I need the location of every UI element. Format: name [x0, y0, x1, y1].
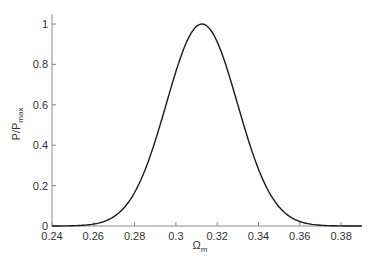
y-ticks: 00.20.40.60.81 [33, 18, 56, 232]
chart: 0.240.260.280.30.320.340.360.38 00.20.40… [0, 0, 375, 267]
y-tick-label: 0.4 [33, 139, 48, 151]
y-tick-label: 0 [42, 220, 48, 232]
y-tick-label: 0.8 [33, 58, 48, 70]
x-tick-label: 0.3 [168, 230, 183, 242]
probability-curve [52, 24, 362, 226]
x-axis-label-sub: m [201, 245, 208, 254]
y-tick-label: 0.2 [33, 180, 48, 192]
y-axis-label-main: P/P [10, 123, 22, 141]
y-axis-label-sub: max [16, 108, 25, 123]
y-axis-label: P/Pmax [10, 108, 25, 141]
x-tick-label: 0.28 [124, 230, 145, 242]
axes [52, 14, 362, 226]
y-tick-label: 0.6 [33, 99, 48, 111]
y-tick-label: 1 [42, 18, 48, 30]
x-tick-label: 0.34 [248, 230, 269, 242]
x-tick-label: 0.32 [206, 230, 227, 242]
x-axis-label-main: Ω [193, 239, 201, 251]
x-tick-label: 0.36 [289, 230, 310, 242]
x-axis-label: Ωm [193, 239, 208, 254]
x-tick-label: 0.26 [83, 230, 104, 242]
x-tick-label: 0.38 [330, 230, 351, 242]
